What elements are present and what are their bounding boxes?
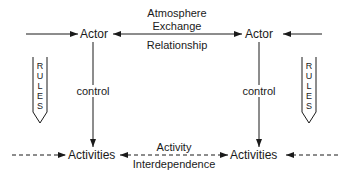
rules-left-letter: R (33, 61, 47, 71)
activities-right-node: Activities (230, 149, 277, 161)
rules-left-letter: L (33, 81, 47, 91)
rules-right-letter: E (302, 91, 316, 101)
rules-right-letter: L (302, 81, 316, 91)
rules-left-letter: E (33, 91, 47, 101)
actor-left-node: Actor (80, 28, 108, 40)
rules-left-letter: S (33, 101, 47, 111)
rules-right-letter: U (302, 71, 316, 81)
rules-right-letter: S (302, 101, 316, 111)
edge-label-interdependence: Interdependence (133, 158, 216, 170)
edge-label-control-left: control (75, 85, 110, 97)
edge-label-relationship: Relationship (147, 39, 208, 51)
edge-label-activity: Activity (157, 141, 192, 153)
actor-right-node: Actor (245, 28, 273, 40)
activities-left-node: Activities (68, 149, 115, 161)
rules-right-letter: R (302, 61, 316, 71)
rules-left-letter: U (33, 71, 47, 81)
edge-label-exchange: Exchange (153, 20, 202, 32)
edge-label-atmosphere: Atmosphere (147, 7, 206, 19)
edge-label-control-right: control (241, 85, 276, 97)
